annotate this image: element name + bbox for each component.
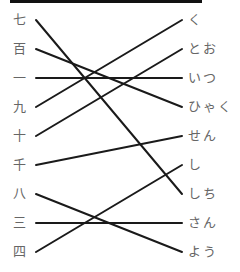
connection-line bbox=[36, 20, 182, 107]
connection-lines bbox=[0, 0, 240, 272]
connection-line bbox=[36, 20, 182, 194]
connection-line bbox=[36, 165, 182, 252]
connection-line bbox=[36, 49, 182, 136]
connection-line bbox=[36, 136, 182, 165]
